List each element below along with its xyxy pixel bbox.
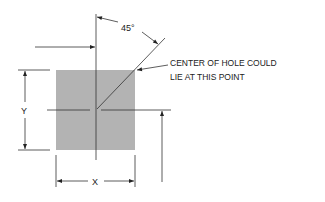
- angle-arrow-right: [142, 32, 158, 44]
- angle-arrow-left: [97, 17, 118, 22]
- y-dimension-label: Y: [21, 106, 27, 116]
- callout-leader-arrow: [137, 65, 168, 70]
- angle-label: 45°: [121, 23, 135, 33]
- callout-line-1: CENTER OF HOLE COULD: [170, 58, 277, 68]
- x-dimension-label: X: [92, 177, 98, 187]
- tolerance-diagram: 45° CENTER OF HOLE COULD LIE AT THIS POI…: [0, 0, 325, 202]
- callout-line-2: LIE AT THIS POINT: [170, 72, 245, 82]
